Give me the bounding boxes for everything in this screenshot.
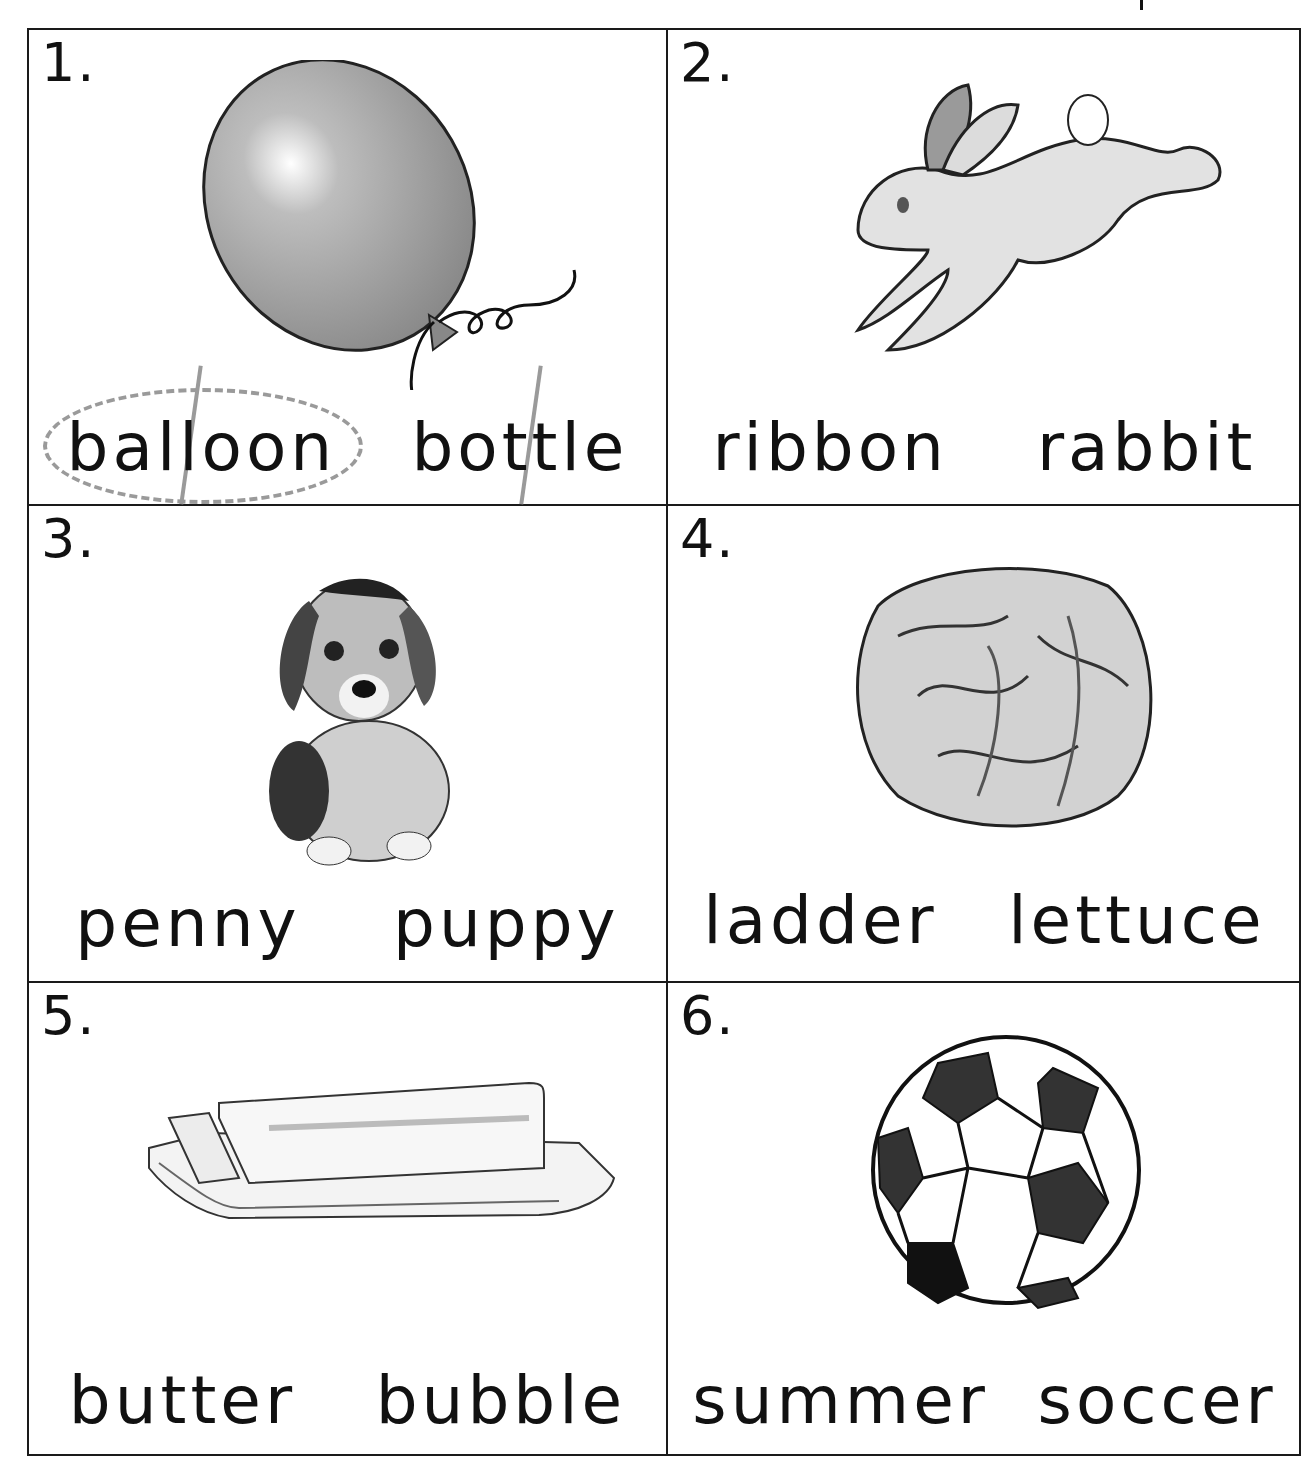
- butter-picture: [139, 1073, 619, 1243]
- cell-4: 4. ladder lettuce: [668, 506, 1301, 981]
- worksheet-grid: 1. balloon bottle 2.: [27, 28, 1301, 1456]
- word-choices: butter bubble: [29, 1368, 666, 1434]
- top-edge-mark: [1140, 0, 1143, 10]
- word-choice[interactable]: bubble: [376, 1368, 626, 1434]
- lettuce-picture: [838, 546, 1168, 846]
- cell-number: 6.: [680, 989, 736, 1043]
- rabbit-picture: [818, 60, 1238, 380]
- cell-3: 3. penny puppy: [29, 506, 666, 981]
- word-choices: summer soccer: [668, 1368, 1301, 1434]
- word-choices: ladder lettuce: [668, 888, 1301, 954]
- word-choices: penny puppy: [29, 891, 666, 957]
- word-choice[interactable]: balloon: [67, 415, 337, 481]
- cell-number: 3.: [41, 512, 97, 566]
- cell-number: 1.: [41, 36, 97, 90]
- word-choice[interactable]: lettuce: [1008, 888, 1265, 954]
- cell-number: 2.: [680, 36, 736, 90]
- cell-2: 2. ribbon rabbit: [668, 30, 1301, 504]
- word-choices: balloon bottle: [29, 415, 666, 481]
- soccer-ball-picture: [868, 1028, 1148, 1318]
- word-choice[interactable]: puppy: [393, 891, 620, 957]
- cell-6: 6. summer soccer: [668, 983, 1301, 1454]
- cell-number: 5.: [41, 989, 97, 1043]
- balloon-picture: [189, 60, 609, 390]
- cell-number: 4.: [680, 512, 736, 566]
- word-choice[interactable]: ribbon: [712, 415, 947, 481]
- word-choices: ribbon rabbit: [668, 415, 1301, 481]
- puppy-picture: [249, 561, 469, 871]
- cell-5: 5. butter bubble: [29, 983, 666, 1454]
- word-choice[interactable]: rabbit: [1037, 415, 1257, 481]
- word-choice[interactable]: summer: [692, 1368, 989, 1434]
- word-choice[interactable]: butter: [69, 1368, 296, 1434]
- word-choice[interactable]: penny: [75, 891, 300, 957]
- word-choice[interactable]: soccer: [1038, 1368, 1277, 1434]
- word-choice[interactable]: ladder: [703, 888, 937, 954]
- cell-1: 1. balloon bottle: [29, 30, 666, 504]
- word-choice[interactable]: bottle: [411, 415, 628, 481]
